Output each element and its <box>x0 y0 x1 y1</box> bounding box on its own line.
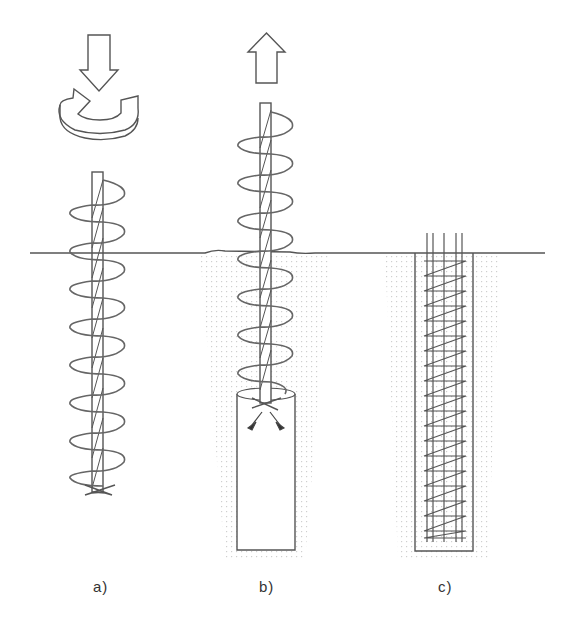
stage-a-label: a) <box>93 578 108 595</box>
down-arrow-icon <box>80 35 118 91</box>
auger-shaft <box>260 103 271 403</box>
rotation-arrow-icon <box>59 89 138 140</box>
cfa-pile-diagram <box>0 0 575 628</box>
up-arrow-icon <box>248 33 285 83</box>
stage-a <box>59 35 138 495</box>
concrete-column <box>237 394 295 550</box>
stage-b-label: b) <box>259 578 274 595</box>
ground-surface-line <box>30 250 545 253</box>
stage-c-label: c) <box>438 578 453 595</box>
